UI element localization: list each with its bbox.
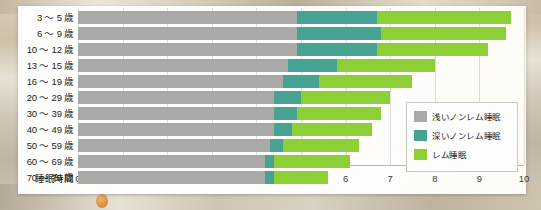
chart-card: 012345678910 3 〜 5 歳6 〜 9 歳10 〜 12 歳13 〜… <box>18 6 526 194</box>
bar-segment-light <box>78 59 288 72</box>
chart-legend: 浅いノンレム睡眠深いノンレム睡眠レム睡眠 <box>406 102 518 172</box>
bar-segment-light <box>78 139 270 152</box>
bar-segment-light <box>78 155 265 168</box>
bar-segment-deep <box>274 91 301 104</box>
legend-item: レム睡眠 <box>414 148 511 160</box>
bar-segment-deep <box>297 43 377 56</box>
bar-segment-deep <box>297 11 377 24</box>
bar-row: 6 〜 9 歳 <box>18 26 526 41</box>
legend-label: レム睡眠 <box>432 148 466 160</box>
bar-segment-deep <box>274 107 296 120</box>
bar-segment-deep <box>297 27 382 40</box>
bar-segment-deep <box>265 171 274 184</box>
age-group-label: 40 〜 49 歳 <box>18 122 74 137</box>
bar-row: 10 〜 12 歳 <box>18 42 526 57</box>
legend-item: 深いノンレム睡眠 <box>414 129 511 141</box>
bar-segment-light <box>78 43 297 56</box>
bar-segment-light <box>78 75 283 88</box>
bar-segment-deep <box>288 59 337 72</box>
bar-segment-light <box>78 107 274 120</box>
age-group-label: 6 〜 9 歳 <box>18 26 74 41</box>
stacked-bar <box>78 107 381 120</box>
stacked-bar <box>78 27 506 40</box>
stacked-bar <box>78 43 488 56</box>
legend-swatch-deep <box>414 130 427 141</box>
bar-segment-rem <box>377 43 489 56</box>
bar-segment-rem <box>297 107 382 120</box>
bar-row: 16 〜 19 歳 <box>18 74 526 89</box>
bar-row: 13 〜 15 歳 <box>18 58 526 73</box>
stacked-bar <box>78 75 412 88</box>
bar-row: 70 〜 79 歳 <box>18 170 526 185</box>
stacked-bar <box>78 11 511 24</box>
stacked-bar <box>78 59 435 72</box>
bar-segment-rem <box>337 59 435 72</box>
bar-segment-rem <box>319 75 413 88</box>
age-group-label: 13 〜 15 歳 <box>18 58 74 73</box>
sleep-stacked-bar-chart: 012345678910 3 〜 5 歳6 〜 9 歳10 〜 12 歳13 〜… <box>18 6 526 194</box>
age-group-label: 60 〜 69 歳 <box>18 154 74 169</box>
legend-label: 深いノンレム睡眠 <box>432 129 501 141</box>
bar-segment-rem <box>381 27 506 40</box>
bar-segment-deep <box>274 123 292 136</box>
legend-item: 浅いノンレム睡眠 <box>414 110 511 122</box>
bar-segment-light <box>78 171 265 184</box>
age-group-label: 10 〜 12 歳 <box>18 42 74 57</box>
stacked-bar <box>78 91 390 104</box>
age-group-label: 50 〜 59 歳 <box>18 138 74 153</box>
legend-label: 浅いノンレム睡眠 <box>432 110 501 122</box>
age-group-label: 16 〜 19 歳 <box>18 74 74 89</box>
bar-segment-deep <box>283 75 319 88</box>
bar-segment-rem <box>283 139 359 152</box>
age-group-label: 20 〜 29 歳 <box>18 90 74 105</box>
stacked-bar <box>78 171 328 184</box>
legend-swatch-rem <box>414 149 427 160</box>
legend-swatch-light <box>414 111 427 122</box>
bar-segment-rem <box>292 123 372 136</box>
bar-segment-light <box>78 123 274 136</box>
age-group-label: 30 〜 39 歳 <box>18 106 74 121</box>
bar-segment-rem <box>377 11 511 24</box>
x-axis-title: 睡眠時間 <box>18 171 74 185</box>
bar-segment-light <box>78 27 297 40</box>
bar-segment-rem <box>274 155 350 168</box>
bar-segment-deep <box>265 155 274 168</box>
stacked-bar <box>78 139 359 152</box>
bar-segment-deep <box>270 139 283 152</box>
bar-segment-light <box>78 91 274 104</box>
bar-segment-rem <box>274 171 328 184</box>
stacked-bar <box>78 155 350 168</box>
bar-row: 3 〜 5 歳 <box>18 10 526 25</box>
stacked-bar <box>78 123 372 136</box>
age-group-label: 3 〜 5 歳 <box>18 10 74 25</box>
bar-segment-rem <box>301 91 390 104</box>
orange-object <box>96 194 108 208</box>
bar-segment-light <box>78 11 297 24</box>
